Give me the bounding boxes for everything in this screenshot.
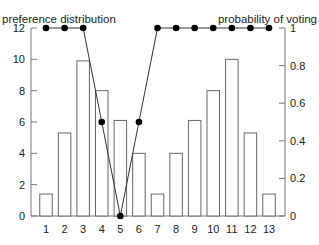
left-tick-label: 6: [19, 116, 25, 128]
probability-marker: [117, 213, 124, 220]
bar: [77, 61, 90, 216]
probability-marker: [136, 119, 143, 126]
left-tick-label: 4: [19, 147, 25, 159]
right-tick-label: 0: [290, 210, 296, 222]
bar: [58, 133, 70, 216]
left-tick-label: 10: [13, 53, 25, 65]
left-tick-label: 8: [19, 85, 25, 97]
bars: [40, 59, 276, 216]
x-tick-label: 11: [226, 223, 237, 235]
chart: 02468101200.20.40.60.8112345678910111213…: [0, 0, 319, 245]
x-tick-label: 9: [192, 223, 198, 235]
x-tick-label: 3: [80, 223, 86, 235]
probability-marker: [191, 25, 198, 32]
x-tick-label: 10: [207, 223, 219, 235]
x-tick-label: 5: [117, 223, 123, 235]
bar: [40, 194, 53, 216]
probability-marker: [43, 25, 50, 32]
right-tick-label: 0.8: [290, 60, 305, 72]
x-tick-label: 12: [244, 223, 256, 235]
probability-marker: [173, 25, 180, 32]
right-tick-label: 0.2: [290, 172, 305, 184]
probability-marker: [154, 25, 161, 32]
x-tick-label: 6: [136, 223, 142, 235]
bar: [263, 194, 276, 216]
right-tick-label: 0.6: [290, 97, 305, 109]
probability-marker: [266, 25, 273, 32]
x-tick-label: 4: [99, 223, 105, 235]
bar: [207, 91, 220, 216]
x-tick-label: 1: [43, 223, 49, 235]
probability-marker: [98, 119, 105, 126]
x-tick-label: 2: [62, 223, 68, 235]
x-tick-label: 8: [173, 223, 179, 235]
probability-marker: [247, 25, 254, 32]
left-tick-label: 2: [19, 179, 25, 191]
probability-marker: [61, 25, 68, 32]
left-tick-label: 0: [19, 210, 25, 222]
bar: [170, 153, 183, 216]
left-title: preference distribution: [2, 13, 116, 25]
bar: [151, 194, 164, 216]
bar: [114, 120, 127, 216]
right-title: probability of voting: [218, 13, 317, 25]
right-tick-label: 0.4: [290, 135, 305, 147]
bar: [244, 133, 257, 216]
x-tick-label: 13: [263, 223, 275, 235]
x-tick-label: 7: [154, 223, 160, 235]
probability-marker: [80, 25, 87, 32]
bar: [188, 120, 201, 216]
probability-marker: [229, 25, 236, 32]
bar: [96, 91, 109, 216]
bar: [226, 59, 239, 216]
probability-marker: [210, 25, 217, 32]
bar: [133, 153, 146, 216]
